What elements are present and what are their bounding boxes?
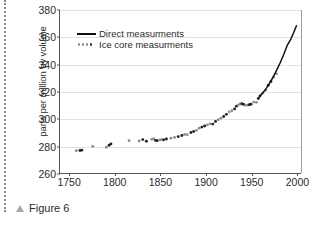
left-dotted-rule <box>4 0 6 212</box>
series-point-ice-core <box>141 138 144 141</box>
y-tick-mark <box>57 174 60 175</box>
series-line-direct <box>258 26 296 99</box>
x-tick-mark <box>252 173 253 176</box>
chart-plot-wrapper: parts per million by volume 260280300320… <box>14 2 319 198</box>
figure-page: parts per million by volume 260280300320… <box>0 0 323 225</box>
x-tick-label: 1750 <box>57 176 80 188</box>
series-point-ice-core <box>170 137 173 140</box>
series-point-ice-core <box>214 120 217 123</box>
y-tick-label: 300 <box>38 113 56 125</box>
y-tick-label: 360 <box>38 31 56 43</box>
series-point-ice-core <box>211 123 214 126</box>
x-tick-mark <box>206 173 207 176</box>
series-point-ice-core <box>190 131 193 134</box>
series-point-ice-core <box>200 126 203 129</box>
x-tick-label: 1850 <box>149 176 172 188</box>
x-tick-label: 1800 <box>103 176 126 188</box>
series-point-ice-core <box>225 113 228 116</box>
series-point-ice-core <box>156 139 159 142</box>
y-tick-label: 260 <box>38 168 56 180</box>
x-tick-mark <box>297 173 298 176</box>
series-point-ice-core <box>203 125 206 128</box>
y-axis-title: parts per million by volume <box>37 7 48 157</box>
x-tick-mark <box>160 173 161 176</box>
series-point-ice-core <box>180 134 183 137</box>
series-point-ice-core <box>145 140 148 143</box>
series-point-ice-core <box>230 109 233 112</box>
y-tick-label: 340 <box>38 59 56 71</box>
series-point-ice-core <box>109 142 112 145</box>
series-point-ice-core <box>128 139 131 142</box>
x-tick-label: 1900 <box>194 176 217 188</box>
series-point-ice-core <box>209 122 212 125</box>
x-tick-mark <box>115 173 116 176</box>
chart-legend: Direct measurments Ice core measurments <box>76 28 193 50</box>
legend-item-ice-core: Ice core measurments <box>76 39 193 50</box>
series-point-ice-core <box>162 138 165 141</box>
series-point-ice-core <box>105 146 108 149</box>
x-tick-label: 2000 <box>286 176 309 188</box>
x-tick-label: 1950 <box>240 176 263 188</box>
series-point-ice-core <box>91 145 94 148</box>
series-point-ice-core <box>217 118 220 121</box>
series-point-ice-core <box>192 130 195 133</box>
legend-item-direct: Direct measurments <box>76 28 193 39</box>
legend-line-icon <box>76 29 98 39</box>
series-point-ice-core <box>183 133 186 136</box>
series-point-ice-core <box>222 115 225 118</box>
figure-caption: Figure 6 <box>16 202 69 214</box>
series-point-ice-core <box>255 101 258 104</box>
triangle-up-icon <box>16 205 24 212</box>
y-tick-label: 320 <box>38 86 56 98</box>
legend-label-direct: Direct measurments <box>98 28 184 39</box>
legend-label-ice-core: Ice core measurments <box>98 39 193 50</box>
series-point-ice-core <box>173 136 176 139</box>
series-point-ice-core <box>228 110 231 113</box>
figure-caption-text: Figure 6 <box>29 202 69 214</box>
series-point-ice-core <box>165 138 168 141</box>
series-point-ice-core <box>206 123 209 126</box>
series-point-ice-core <box>220 117 223 120</box>
series-point-ice-core <box>195 129 198 132</box>
co2-chart-figure: parts per million by volume 260280300320… <box>14 2 319 198</box>
series-point-ice-core <box>138 140 141 143</box>
series-point-ice-core <box>233 107 236 110</box>
series-point-ice-core <box>250 103 253 106</box>
legend-dots-icon <box>76 40 98 50</box>
series-point-ice-core <box>186 133 189 136</box>
x-tick-mark <box>69 173 70 176</box>
series-point-ice-core <box>198 127 201 130</box>
series-point-ice-core <box>252 101 255 104</box>
series-point-ice-core <box>177 135 180 138</box>
y-tick-label: 380 <box>38 4 56 16</box>
series-point-ice-core <box>80 149 83 152</box>
y-tick-label: 280 <box>38 141 56 153</box>
series-point-ice-core <box>75 149 78 152</box>
